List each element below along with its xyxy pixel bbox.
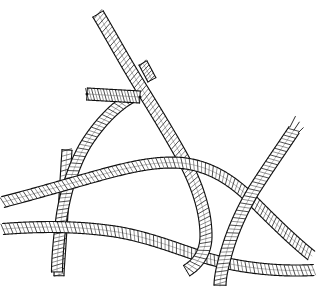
band-vertical-straight-cap-start <box>62 150 72 151</box>
figure-canvas: Intersecting hatched ribbon bands <box>0 0 320 288</box>
stub-horizontal-mid <box>86 88 142 103</box>
stub-horizontal-mid-knot-dot-1 <box>86 93 89 96</box>
ribbon-bands-drawing: Intersecting hatched ribbon bands <box>0 0 320 288</box>
stub-horizontal-mid-knot-dot-2 <box>138 96 141 99</box>
